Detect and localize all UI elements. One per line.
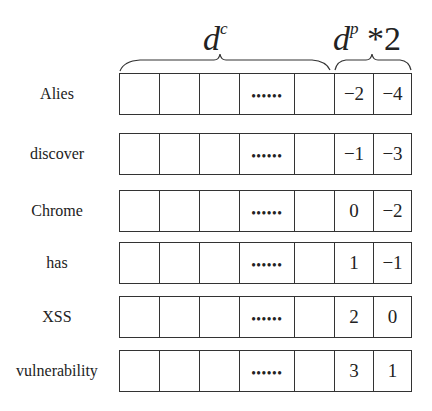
content-cell: [159, 190, 200, 232]
token-row: discover••••••−1−3: [0, 133, 432, 175]
position-value: 1: [388, 360, 398, 381]
position-cell-2: −1: [373, 242, 412, 284]
content-cell: [294, 190, 335, 232]
position-cell-1: 3: [334, 350, 374, 392]
token-label: XSS: [0, 296, 114, 338]
content-cell: [119, 190, 160, 232]
content-cell: [294, 242, 335, 284]
token-label: has: [0, 242, 114, 284]
token-row: Chrome••••••0−2: [0, 190, 432, 232]
token-label: Chrome: [0, 190, 114, 232]
position-cell-1: 0: [334, 190, 374, 232]
token-label: Alies: [0, 73, 114, 115]
position-value: −1: [344, 143, 364, 164]
token-row: Alies••••••−2−4: [0, 73, 432, 115]
content-cell-ellipsis: ••••••: [239, 190, 295, 232]
content-cell: [159, 242, 200, 284]
position-cell-2: 0: [373, 296, 412, 338]
position-value: −2: [382, 200, 402, 221]
position-brace: [335, 54, 411, 70]
content-brace: [120, 54, 330, 71]
position-value: −4: [382, 83, 402, 104]
content-cell: [294, 133, 335, 175]
content-cell: [159, 133, 200, 175]
position-value: −2: [344, 83, 364, 104]
content-cell-ellipsis: ••••••: [239, 350, 295, 392]
position-cell-1: 1: [334, 242, 374, 284]
position-cell-2: −2: [373, 190, 412, 232]
ellipsis: ••••••: [251, 206, 282, 220]
content-cell: [119, 133, 160, 175]
braces: [0, 0, 432, 75]
content-cell: [159, 350, 200, 392]
content-cell: [294, 296, 335, 338]
position-cell-1: −1: [334, 133, 374, 175]
ellipsis: ••••••: [251, 149, 282, 163]
position-value: −1: [382, 252, 402, 273]
content-cell: [199, 190, 240, 232]
content-cell-ellipsis: ••••••: [239, 133, 295, 175]
position-value: 1: [349, 252, 359, 273]
content-cell: [199, 350, 240, 392]
position-cell-1: −2: [334, 73, 374, 115]
content-cell: [119, 73, 160, 115]
content-cell: [199, 242, 240, 284]
content-cell-ellipsis: ••••••: [239, 73, 295, 115]
content-cell: [199, 296, 240, 338]
position-cell-2: −3: [373, 133, 412, 175]
position-value: 3: [349, 360, 359, 381]
content-cell-ellipsis: ••••••: [239, 242, 295, 284]
ellipsis: ••••••: [251, 312, 282, 326]
position-value: 0: [349, 200, 359, 221]
content-cell: [294, 350, 335, 392]
ellipsis: ••••••: [251, 89, 282, 103]
token-row: vulnerability••••••31: [0, 350, 432, 392]
token-label: discover: [0, 133, 114, 175]
content-cell: [119, 350, 160, 392]
content-cell: [119, 242, 160, 284]
position-cell-2: 1: [373, 350, 412, 392]
content-cell: [159, 296, 200, 338]
position-cell-1: 2: [334, 296, 374, 338]
position-value: 0: [388, 306, 398, 327]
position-cell-2: −4: [373, 73, 412, 115]
token-label: vulnerability: [0, 350, 114, 392]
token-row: XSS••••••20: [0, 296, 432, 338]
content-cell: [119, 296, 160, 338]
ellipsis: ••••••: [251, 366, 282, 380]
content-cell: [159, 73, 200, 115]
content-cell: [294, 73, 335, 115]
content-cell: [199, 73, 240, 115]
content-cell-ellipsis: ••••••: [239, 296, 295, 338]
position-value: 2: [349, 306, 359, 327]
token-row: has••••••1−1: [0, 242, 432, 284]
content-cell: [199, 133, 240, 175]
position-value: −3: [382, 143, 402, 164]
ellipsis: ••••••: [251, 258, 282, 272]
